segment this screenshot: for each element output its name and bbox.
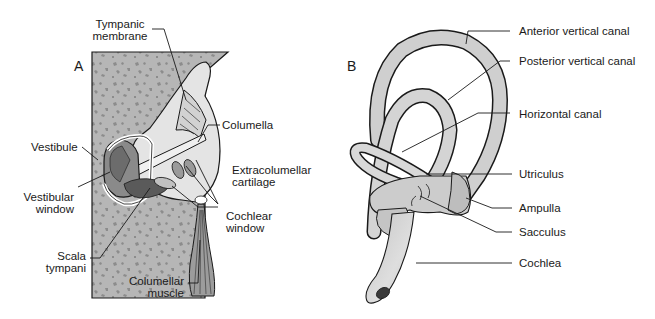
label-ampulla: Ampulla <box>519 202 561 214</box>
label-text: Scala <box>28 250 86 262</box>
label-vestibule: Vestibule <box>31 141 78 153</box>
label-horizontal-canal: Horizontal canal <box>519 108 601 120</box>
panel-b-drawing <box>355 31 512 303</box>
label-text: Cochlear <box>226 210 272 222</box>
label-columellar-muscle: Columellar muscle <box>118 275 184 299</box>
label-utriculus: Utriculus <box>519 168 564 180</box>
label-cochlear-window: Cochlear window <box>226 210 272 234</box>
label-text: window <box>14 203 74 215</box>
diagram-artwork <box>0 0 655 319</box>
label-text: window <box>226 222 272 234</box>
label-text: Columellar <box>118 275 184 287</box>
label-text: cartilage <box>232 176 311 188</box>
panel-b-letter: B <box>347 58 356 74</box>
label-text: Vestibular <box>14 191 74 203</box>
label-extracolumellar-cartilage: Extracolumellar cartilage <box>232 164 311 188</box>
label-columella: Columella <box>222 119 273 131</box>
label-text: Extracolumellar <box>232 164 311 176</box>
label-text: muscle <box>118 287 184 299</box>
panel-a-letter: A <box>74 58 83 74</box>
label-tympanic-membrane: Tympanic membrane <box>90 18 150 42</box>
label-sacculus: Sacculus <box>519 226 566 238</box>
label-text: Tympanic <box>90 18 150 30</box>
panel-a-drawing <box>78 29 228 298</box>
label-cochlea: Cochlea <box>519 257 561 269</box>
label-anterior-vertical-canal: Anterior vertical canal <box>519 25 630 37</box>
label-text: membrane <box>90 30 150 42</box>
label-posterior-vertical-canal: Posterior vertical canal <box>519 55 635 67</box>
label-scala-tympani: Scala tympani <box>28 250 86 274</box>
label-vestibular-window: Vestibular window <box>14 191 74 215</box>
label-text: tympani <box>28 262 86 274</box>
